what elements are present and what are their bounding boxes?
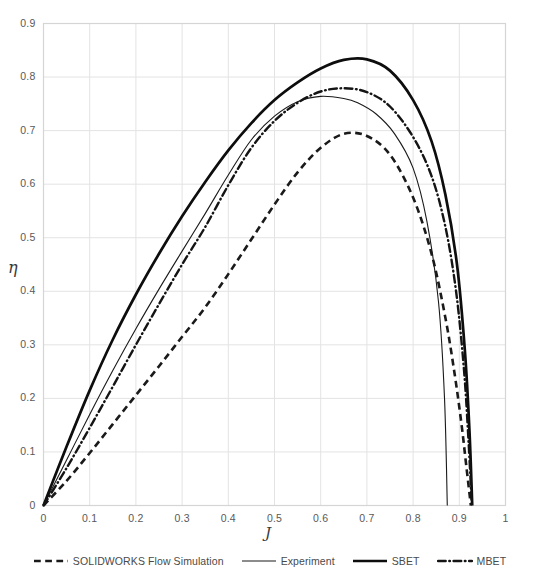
y-tick-label-7: 0.7 bbox=[0, 124, 36, 136]
x-tick-label-1: 0.1 bbox=[70, 512, 110, 524]
y-tick-label-5: 0.5 bbox=[0, 231, 36, 243]
y-axis-title: η bbox=[8, 258, 18, 277]
plot-canvas bbox=[0, 0, 539, 577]
data-curves bbox=[44, 58, 473, 505]
legend-label: SOLIDWORKS Flow Simulation bbox=[73, 555, 224, 567]
gridlines bbox=[44, 24, 506, 506]
legend-item-sbet[interactable]: SBET bbox=[352, 555, 420, 567]
y-tick-label-1: 0.1 bbox=[0, 445, 36, 457]
x-tick-label-3: 0.3 bbox=[162, 512, 202, 524]
y-tick-label-3: 0.3 bbox=[0, 338, 36, 350]
efficiency-vs-advance-ratio-chart: 00.10.20.30.40.50.60.70.80.9 00.10.20.30… bbox=[0, 0, 539, 577]
legend-swatch-solid-thick-icon bbox=[352, 556, 388, 566]
y-tick-label-9: 0.9 bbox=[0, 17, 36, 29]
x-tick-label-6: 0.6 bbox=[301, 512, 341, 524]
x-tick-label-4: 0.4 bbox=[208, 512, 248, 524]
legend-label: Experiment bbox=[281, 555, 335, 567]
legend-label: SBET bbox=[392, 555, 420, 567]
y-tick-label-8: 0.8 bbox=[0, 70, 36, 82]
legend-label: MBET bbox=[477, 555, 507, 567]
x-tick-label-5: 0.5 bbox=[255, 512, 295, 524]
legend-item-solidworks-flow-simulation[interactable]: SOLIDWORKS Flow Simulation bbox=[33, 555, 224, 567]
y-tick-label-0: 0 bbox=[0, 499, 36, 511]
legend-item-mbet[interactable]: MBET bbox=[437, 555, 507, 567]
legend-swatch-dash-dot-icon bbox=[437, 556, 473, 566]
x-tick-label-9: 0.9 bbox=[439, 512, 479, 524]
x-tick-label-2: 0.2 bbox=[116, 512, 156, 524]
legend-item-experiment[interactable]: Experiment bbox=[241, 555, 335, 567]
x-axis-title: J bbox=[265, 524, 271, 542]
series-line-sbet bbox=[44, 58, 473, 505]
x-tick-label-7: 0.7 bbox=[347, 512, 387, 524]
series-line-mbet bbox=[44, 88, 472, 505]
chart-legend: SOLIDWORKS Flow SimulationExperimentSBET… bbox=[0, 550, 539, 572]
legend-swatch-solid-thin-icon bbox=[241, 556, 277, 566]
y-tick-label-4: 0.4 bbox=[0, 284, 36, 296]
x-tick-label-10: 1 bbox=[486, 512, 526, 524]
series-line-experiment bbox=[44, 96, 448, 505]
x-tick-label-8: 0.8 bbox=[393, 512, 433, 524]
x-tick-label-0: 0 bbox=[24, 512, 64, 524]
series-line-solidworks-flow-simulation bbox=[44, 133, 471, 506]
y-tick-label-6: 0.6 bbox=[0, 177, 36, 189]
y-tick-label-2: 0.2 bbox=[0, 391, 36, 403]
legend-swatch-dashed-icon bbox=[33, 556, 69, 566]
